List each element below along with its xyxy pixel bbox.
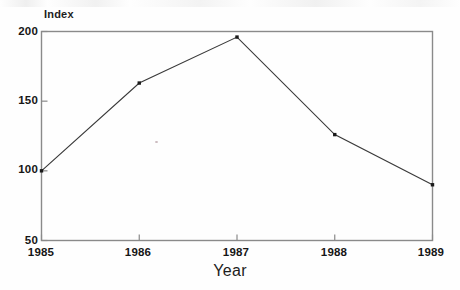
data-point-markers: [40, 35, 434, 186]
tick-marks: [42, 32, 433, 241]
plot-frame: [42, 32, 433, 241]
chart-figure: Index 200 150 100 50 1985 1986 1987 1988…: [0, 0, 460, 290]
plot-area: [0, 0, 460, 290]
data-point-1986: [138, 81, 141, 84]
data-point-1987: [235, 35, 238, 38]
data-point-1989: [431, 183, 434, 186]
x-axis-title: Year: [0, 262, 460, 280]
data-point-1988: [333, 133, 336, 136]
data-series-line: [42, 37, 433, 185]
data-point-1985: [40, 169, 43, 172]
